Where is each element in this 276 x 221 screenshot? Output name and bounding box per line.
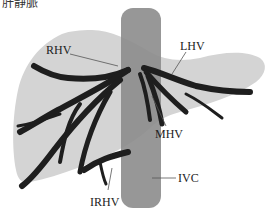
label-ivc: IVC — [178, 172, 199, 184]
label-irhv: IRHV — [90, 196, 119, 208]
liver-hepatic-vein-diagram — [0, 0, 276, 221]
label-mhv: MHV — [155, 128, 183, 140]
label-lhv: LHV — [180, 40, 205, 52]
label-rhv: RHV — [46, 44, 71, 56]
